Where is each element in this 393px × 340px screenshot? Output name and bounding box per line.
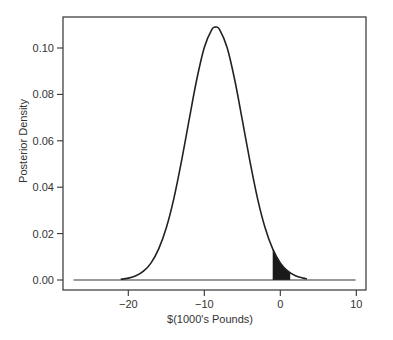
- y-tick-label: 0.08: [33, 88, 54, 100]
- y-tick-label: 0.04: [33, 181, 54, 193]
- x-tick-label: 10: [350, 298, 362, 310]
- y-tick-label: 0.00: [33, 274, 54, 286]
- plot-frame: [63, 17, 366, 290]
- x-tick-label: 0: [277, 298, 283, 310]
- y-tick-label: 0.02: [33, 228, 54, 240]
- y-tick-label: 0.06: [33, 135, 54, 147]
- density-curve: [121, 27, 307, 279]
- y-tick-label: 0.10: [33, 42, 54, 54]
- x-axis-title: $(1000's Pounds): [167, 313, 253, 325]
- x-axis: −20−10010: [119, 290, 362, 310]
- posterior-density-chart: 0.000.020.040.060.080.10 −20−10010 $(100…: [0, 0, 393, 340]
- x-tick-label: −20: [119, 298, 138, 310]
- x-tick-label: −10: [195, 298, 214, 310]
- y-axis: 0.000.020.040.060.080.10: [33, 42, 63, 286]
- y-axis-title: Posterior Density: [17, 99, 29, 183]
